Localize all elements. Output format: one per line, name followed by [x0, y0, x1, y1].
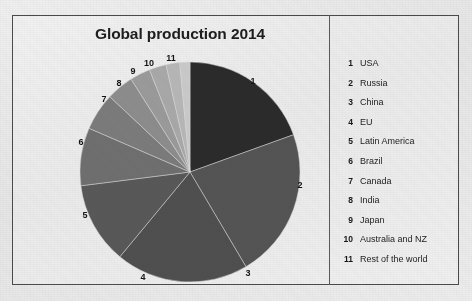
pie-slice-group — [80, 62, 300, 282]
pie-slice-label: 5 — [82, 210, 87, 220]
pie-chart-svg — [0, 0, 329, 301]
pie-chart: 1234567891011 — [0, 0, 329, 301]
pie-slice-label: 7 — [101, 94, 106, 104]
legend-item[interactable]: 8India — [338, 195, 466, 215]
legend-item-label: Australia and NZ — [353, 234, 427, 244]
legend-item-number: 1 — [338, 58, 353, 68]
legend-item-number: 10 — [338, 234, 353, 244]
legend-item[interactable]: 2Russia — [338, 78, 466, 98]
legend-item-number: 8 — [338, 195, 353, 205]
legend: 1USA2Russia3China4EU5Latin America6Brazi… — [338, 58, 466, 274]
pie-slice-label: 10 — [144, 58, 154, 68]
legend-item-label: USA — [353, 58, 379, 68]
legend-item-label: China — [353, 97, 384, 107]
pie-slice-label: 8 — [116, 78, 121, 88]
legend-item-number: 2 — [338, 78, 353, 88]
legend-item-label: Russia — [353, 78, 388, 88]
pie-slice-label: 2 — [297, 180, 302, 190]
legend-item-number: 7 — [338, 176, 353, 186]
legend-item-label: Rest of the world — [353, 254, 428, 264]
legend-item[interactable]: 1USA — [338, 58, 466, 78]
legend-item-label: India — [353, 195, 380, 205]
pie-slice-label: 3 — [245, 268, 250, 278]
legend-item-label: Canada — [353, 176, 392, 186]
legend-item-number: 4 — [338, 117, 353, 127]
legend-item-number: 5 — [338, 136, 353, 146]
legend-item[interactable]: 9Japan — [338, 215, 466, 235]
legend-item[interactable]: 3China — [338, 97, 466, 117]
legend-item[interactable]: 11Rest of the world — [338, 254, 466, 274]
legend-item[interactable]: 10Australia and NZ — [338, 234, 466, 254]
legend-item-label: Japan — [353, 215, 385, 225]
pie-slice-label: 6 — [78, 137, 83, 147]
pie-slice-label: 9 — [130, 66, 135, 76]
scanned-chart-page: Global production 2014 1234567891011 1US… — [0, 0, 472, 301]
pie-slice-label: 4 — [140, 272, 145, 282]
legend-item-label: EU — [353, 117, 373, 127]
pie-slice-label: 1 — [250, 76, 255, 86]
legend-item[interactable]: 5Latin America — [338, 136, 466, 156]
legend-item[interactable]: 7Canada — [338, 176, 466, 196]
legend-item[interactable]: 6Brazil — [338, 156, 466, 176]
legend-item-number: 6 — [338, 156, 353, 166]
legend-item-number: 9 — [338, 215, 353, 225]
legend-item-label: Latin America — [353, 136, 415, 146]
legend-item-label: Brazil — [353, 156, 383, 166]
legend-item-number: 3 — [338, 97, 353, 107]
legend-item[interactable]: 4EU — [338, 117, 466, 137]
chart-legend-divider — [329, 15, 330, 285]
pie-slice-label: 11 — [166, 53, 176, 63]
legend-item-number: 11 — [338, 254, 353, 264]
